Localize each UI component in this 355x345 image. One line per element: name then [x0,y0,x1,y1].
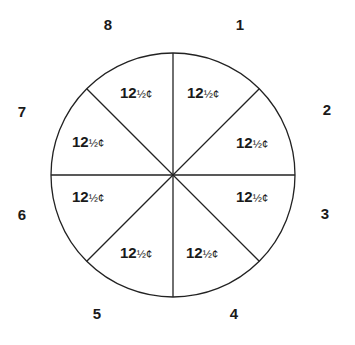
section-number-6: 6 [18,206,26,223]
section-number-5: 5 [93,305,101,322]
section-value-3: 12½¢ [236,188,268,205]
section-value-7: 12½¢ [72,133,104,150]
divided-circle-diagram: 112½¢212½¢312½¢412½¢512½¢612½¢712½¢812½¢ [0,0,355,345]
section-number-8: 8 [104,16,112,33]
section-value-5: 12½¢ [120,244,152,261]
section-value-6: 12½¢ [72,188,104,205]
section-number-1: 1 [236,16,244,33]
section-value-4: 12½¢ [186,244,218,261]
section-number-4: 4 [230,305,239,322]
section-value-1: 12½¢ [187,84,219,101]
section-value-2: 12½¢ [236,134,268,151]
section-labels: 112½¢212½¢312½¢412½¢512½¢612½¢712½¢812½¢ [18,16,331,322]
section-number-2: 2 [323,101,331,118]
section-value-8: 12½¢ [120,84,152,101]
section-number-3: 3 [321,205,329,222]
section-number-7: 7 [18,103,26,120]
circle-outline-and-dividers [51,53,295,297]
